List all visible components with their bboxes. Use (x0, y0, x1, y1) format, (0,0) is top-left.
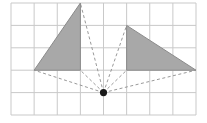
dashed-ray (104, 25, 127, 92)
dashed-ray (34, 70, 103, 92)
center-dot-icon (100, 89, 107, 96)
diagram-canvas (0, 0, 207, 123)
center-point-group (100, 89, 107, 96)
